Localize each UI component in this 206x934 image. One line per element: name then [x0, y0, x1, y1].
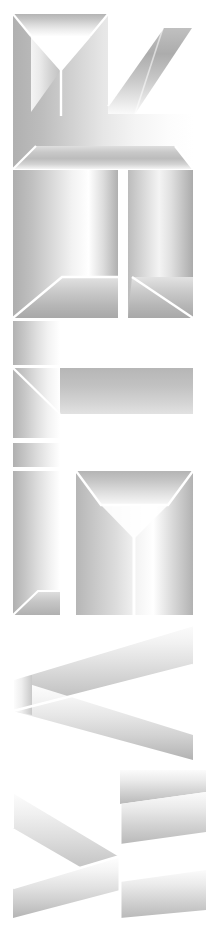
glyph-l-i-pair-shape — [0, 443, 206, 615]
glyph-l-i-pair — [0, 443, 206, 615]
glyph-f-shape — [0, 321, 206, 438]
glyph-u-shape — [0, 170, 206, 318]
glyph-u — [0, 170, 206, 318]
glyph-chevron-left — [0, 625, 206, 760]
glyph-chevron-right — [0, 770, 206, 918]
glyph-l-with-arm-shape — [0, 14, 206, 169]
glyph-chevron-left-shape — [0, 625, 206, 760]
glyph-l-with-arm — [0, 14, 206, 169]
artwork-canvas: Beveled Letterform Column Vertical stack… — [0, 0, 206, 934]
glyph-chevron-right-shape — [0, 770, 206, 918]
glyph-f — [0, 321, 206, 438]
